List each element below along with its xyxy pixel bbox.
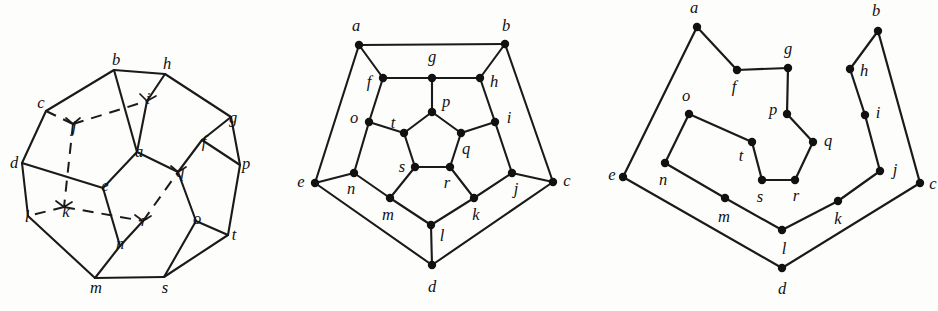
solid-label-p: p bbox=[241, 154, 250, 173]
planar-edge-ab bbox=[359, 44, 505, 45]
solid-label-r: r bbox=[141, 211, 148, 230]
cycle-label-k: k bbox=[834, 209, 842, 228]
planar-edge-dl bbox=[431, 225, 432, 265]
planar-node-group bbox=[311, 40, 557, 269]
cycle-node-d bbox=[778, 264, 786, 272]
solid-hidden-edge-jk bbox=[64, 124, 73, 207]
solid-edge-ms bbox=[95, 277, 164, 278]
planar-edge-pt bbox=[404, 112, 432, 133]
planar-label-s: s bbox=[399, 157, 405, 176]
planar-edge-kr bbox=[450, 167, 474, 198]
solid-label-d: d bbox=[10, 153, 19, 172]
solid-edge-aq bbox=[137, 152, 178, 172]
cycle-node-l bbox=[778, 226, 786, 234]
planar-edge-mn bbox=[354, 173, 390, 198]
solid-hidden-edge-kl bbox=[28, 207, 64, 216]
planar-label-b: b bbox=[502, 16, 510, 35]
solid-hidden-edge-kr bbox=[64, 207, 143, 221]
planar-edge-de bbox=[315, 183, 432, 265]
planar-node-e bbox=[311, 179, 319, 187]
planar-edge-jk bbox=[474, 173, 512, 198]
cycle-node-f bbox=[733, 66, 741, 74]
solid-label-e: e bbox=[101, 176, 108, 195]
solid-label-c: c bbox=[37, 93, 45, 112]
planar-node-s bbox=[411, 163, 419, 171]
planar-node-g bbox=[428, 74, 436, 82]
planar-label-p: p bbox=[441, 92, 450, 111]
planar-node-t bbox=[400, 129, 408, 137]
cycle-edge-st bbox=[752, 142, 762, 180]
solid-edge-cd bbox=[22, 111, 46, 163]
cycle-label-r: r bbox=[793, 186, 800, 205]
planar-node-h bbox=[476, 74, 484, 82]
cycle-node-h bbox=[846, 65, 854, 73]
cycle-label-e: e bbox=[608, 165, 615, 184]
solid-edge-hg bbox=[165, 74, 231, 117]
planar-label-t: t bbox=[391, 113, 396, 132]
panel-planar-graph: abcdefghijklmnopqrst bbox=[290, 0, 620, 311]
cycle-edge-af bbox=[697, 27, 737, 70]
cycle-node-s bbox=[758, 176, 766, 184]
cycle-label-m: m bbox=[718, 207, 730, 226]
cycle-node-p bbox=[783, 110, 791, 118]
planar-label-c: c bbox=[563, 171, 571, 190]
solid-label-j: j bbox=[70, 117, 77, 136]
cycle-node-group bbox=[619, 23, 924, 272]
cycle-node-a bbox=[693, 23, 701, 31]
cycle-edge-qr bbox=[795, 142, 813, 180]
planar-edge-st bbox=[404, 133, 415, 167]
planar-edge-kl bbox=[431, 198, 474, 225]
cycle-label-t: t bbox=[739, 146, 744, 165]
cycle-label-p: p bbox=[768, 100, 777, 119]
figure-sheet: abcdefghijklmnopqrst abcdefghijklmnopqrs… bbox=[0, 0, 938, 311]
planar-label-f: f bbox=[367, 72, 374, 91]
cycle-label-b: b bbox=[872, 1, 880, 20]
cycle-label-s: s bbox=[757, 187, 763, 206]
cycle-edge-to bbox=[689, 114, 752, 142]
cycle-edge-kj bbox=[838, 171, 880, 201]
planar-label-k: k bbox=[472, 205, 480, 224]
planar-node-l bbox=[427, 221, 435, 229]
cycle-label-d: d bbox=[778, 279, 787, 298]
solid-label-n: n bbox=[116, 234, 124, 253]
cycle-edge-ml bbox=[725, 198, 782, 230]
planar-label-o: o bbox=[350, 108, 358, 127]
planar-label-q: q bbox=[462, 139, 470, 158]
cycle-node-j bbox=[876, 167, 884, 175]
planar-node-r bbox=[446, 163, 454, 171]
panel-hamiltonian-cycle: abcdefghijklmnopqrst bbox=[610, 0, 938, 311]
solid-label-l: l bbox=[25, 207, 30, 226]
cycle-label-l: l bbox=[782, 239, 787, 258]
planar-node-n bbox=[350, 169, 358, 177]
planar-edge-qr bbox=[450, 133, 461, 167]
planar-edge-ot bbox=[369, 122, 404, 133]
cycle-edge-on bbox=[665, 114, 689, 163]
hamiltonian-cycle-svg: abcdefghijklmnopqrst bbox=[610, 0, 938, 311]
planar-label-h: h bbox=[490, 72, 498, 91]
solid-hidden-edge-ji bbox=[73, 101, 147, 124]
planar-edge-bc bbox=[505, 44, 553, 182]
solid-dodecahedron-svg: abcdefghijklmnopqrst bbox=[0, 0, 313, 311]
cycle-node-m bbox=[721, 194, 729, 202]
planar-node-f bbox=[379, 74, 387, 82]
planar-edge-pq bbox=[432, 112, 461, 133]
planar-label-j: j bbox=[512, 179, 519, 198]
solid-label-i: i bbox=[146, 89, 151, 108]
planar-label-group: abcdefghijklmnopqrst bbox=[297, 16, 571, 296]
planar-node-q bbox=[457, 129, 465, 137]
solid-label-m: m bbox=[90, 278, 102, 297]
solid-label-b: b bbox=[112, 50, 120, 69]
planar-edge-lm bbox=[390, 198, 431, 225]
cycle-node-n bbox=[661, 159, 669, 167]
planar-node-j bbox=[508, 169, 516, 177]
cycle-label-n: n bbox=[659, 170, 667, 189]
planar-node-i bbox=[491, 118, 499, 126]
planar-label-e: e bbox=[297, 172, 304, 191]
planar-label-m: m bbox=[382, 205, 394, 224]
planar-node-c bbox=[549, 178, 557, 186]
cycle-label-g: g bbox=[784, 39, 792, 58]
cycle-edge-fg bbox=[737, 68, 788, 70]
solid-edge-bc bbox=[46, 70, 114, 111]
cycle-node-e bbox=[619, 173, 627, 181]
solid-edge-group bbox=[22, 70, 240, 278]
